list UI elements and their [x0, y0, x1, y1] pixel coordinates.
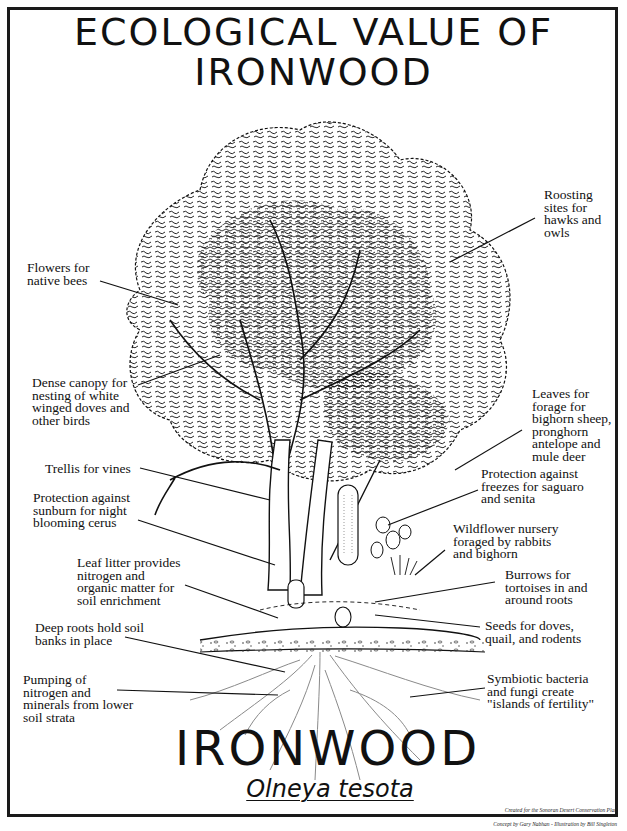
- label-deep-roots: Deep roots hold soil banks in place: [35, 622, 144, 647]
- label-leaves: Leaves for forage for bighorn sheep, pro…: [532, 388, 611, 463]
- leader-trellis: [140, 468, 270, 500]
- label-roosting: Roosting sites for hawks and owls: [544, 189, 601, 239]
- scientific-name: Olneya tesota: [230, 775, 430, 803]
- label-dense-canopy: Dense canopy for nesting of white winged…: [32, 377, 129, 427]
- label-pumping: Pumping of nitrogen and minerals from lo…: [23, 674, 133, 724]
- label-trellis: Trellis for vines: [45, 463, 131, 476]
- credits-line-1: Created for the Sonoran Desert Conservat…: [493, 807, 617, 814]
- common-name: IRONWOOD: [155, 720, 500, 776]
- leader-wildflower: [415, 550, 445, 575]
- label-flowers: Flowers for native bees: [27, 262, 90, 287]
- label-symbiotic: Symbiotic bacteria and fungi create "isl…: [487, 673, 594, 711]
- leader-seeds: [375, 615, 480, 627]
- leader-leaves: [455, 430, 522, 470]
- label-sunburn: Protection against sunburn for night blo…: [33, 492, 130, 530]
- saguaro-cactus: [338, 485, 358, 565]
- tree-canopy: [127, 122, 510, 481]
- label-freezes: Protection against freezes for saguaro a…: [481, 468, 584, 506]
- leader-freezes: [388, 490, 478, 525]
- leader-symbiotic: [410, 688, 485, 697]
- label-burrows: Burrows for tortoises in and around root…: [505, 569, 588, 607]
- leader-pumping: [117, 690, 278, 695]
- credits-line-2: Concept by Gary Nabhan - Illustration by…: [493, 821, 617, 828]
- leader-leaf-litter: [185, 585, 278, 618]
- wildflowers: [391, 555, 417, 575]
- leader-burrows: [375, 582, 495, 602]
- prickly-pear: [371, 517, 411, 558]
- label-leaf-litter: Leaf litter provides nitrogen and organi…: [77, 557, 180, 607]
- label-seeds: Seeds for doves, quail, and rodents: [485, 620, 581, 645]
- credits: Created for the Sonoran Desert Conservat…: [493, 800, 617, 831]
- label-wildflower: Wildflower nursery foraged by rabbits an…: [453, 523, 559, 561]
